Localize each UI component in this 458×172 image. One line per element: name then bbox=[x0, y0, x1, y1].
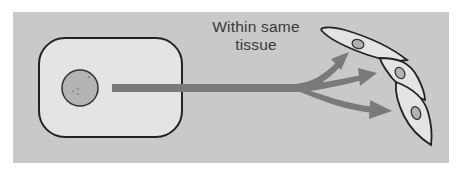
caption-line-2: tissue bbox=[196, 36, 316, 54]
source-cell-nucleus bbox=[62, 70, 98, 106]
caption-label: Within same tissue bbox=[196, 18, 316, 54]
caption-line-1: Within same bbox=[196, 18, 316, 36]
target-cells bbox=[321, 27, 431, 145]
